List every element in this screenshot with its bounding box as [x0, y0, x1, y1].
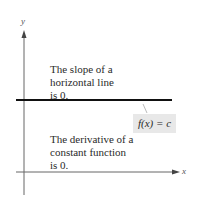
derivative-note-line-2: constant function — [50, 146, 133, 159]
slope-note-line-3: is 0. — [50, 89, 114, 102]
derivative-note-line-1: The derivative of a — [50, 133, 133, 146]
slope-note-line-2: horizontal line — [50, 76, 114, 89]
slope-note-line-1: The slope of a — [50, 63, 114, 76]
plot-area — [0, 0, 197, 207]
slope-note: The slope of a horizontal line is 0. — [50, 63, 114, 102]
function-label: f(x) = c — [133, 114, 176, 133]
derivative-note-line-3: is 0. — [50, 159, 133, 172]
derivative-note: The derivative of a constant function is… — [50, 133, 133, 172]
x-axis-arrow-icon — [172, 170, 180, 175]
y-axis-arrow-icon — [22, 30, 27, 38]
y-axis-label: y — [21, 16, 25, 26]
label-leader-line — [143, 104, 147, 113]
x-axis-label: x — [182, 166, 186, 176]
